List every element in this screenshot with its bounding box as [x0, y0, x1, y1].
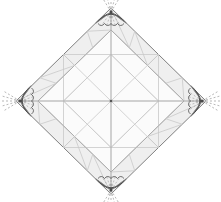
petal-bottom-tip	[110, 189, 113, 192]
petal-top-tip	[110, 11, 113, 14]
axis-layer	[22, 14, 200, 188]
petal-left-tip	[19, 100, 22, 103]
petal-right-tip	[201, 100, 204, 103]
center-point	[110, 100, 113, 103]
crease-pattern-canvas	[0, 0, 221, 202]
crease-pattern-figure	[0, 0, 221, 202]
